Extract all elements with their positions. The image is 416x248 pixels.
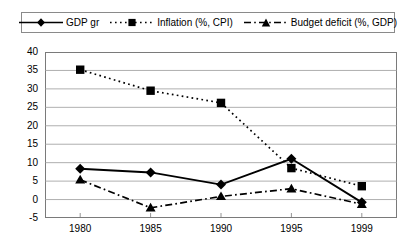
y-axis-tick-label: 25: [8, 102, 38, 112]
chart-legend: GDP gr Inflation (%, CPI) Budget deficit…: [21, 12, 395, 33]
y-axis-tick-label: 35: [8, 65, 38, 75]
x-axis-tick-label: 1980: [55, 224, 105, 234]
legend-marker-square-dotted-icon: [110, 16, 154, 29]
legend-label-gdp-gr: GDP gr: [66, 18, 99, 28]
x-axis-ticks: [80, 213, 362, 218]
data-point-marker: [216, 191, 226, 200]
legend-label-inflation: Inflation (%, CPI): [157, 18, 233, 28]
line-chart: GDP gr Inflation (%, CPI) Budget deficit…: [0, 0, 416, 248]
data-point-marker: [76, 66, 84, 74]
x-axis-tick-label: 1990: [196, 224, 246, 234]
y-axis-tick-label: 30: [8, 84, 38, 94]
legend-item-gdp-gr: GDP gr: [19, 16, 99, 29]
data-point-marker: [146, 167, 156, 177]
data-point-marker: [286, 184, 296, 193]
data-point-marker: [146, 87, 154, 95]
y-axis-tick-label: 0: [8, 195, 38, 205]
y-axis-tick-label: 40: [8, 47, 38, 57]
y-axis-tick-label: 10: [8, 158, 38, 168]
x-axis-tick-label: 1995: [266, 224, 316, 234]
legend-marker-triangle-dashdot-icon: [244, 16, 288, 29]
legend-label-budget-deficit: Budget deficit (%, GDP): [291, 18, 397, 28]
legend-item-inflation: Inflation (%, CPI): [110, 16, 233, 29]
y-axis-tick-label: 5: [8, 176, 38, 186]
y-axis-tick-label: -5: [8, 213, 38, 223]
plot-canvas: [45, 52, 397, 218]
y-axis-tick-label: 15: [8, 139, 38, 149]
data-point-marker: [75, 175, 85, 184]
data-point-marker: [75, 164, 85, 174]
y-axis-tick-label: 20: [8, 121, 38, 131]
data-point-marker: [217, 99, 225, 107]
data-point-marker: [358, 182, 366, 190]
data-point-marker: [287, 164, 295, 172]
x-axis-tick-label: 1999: [337, 224, 387, 234]
x-axis-tick-label: 1985: [126, 224, 176, 234]
legend-item-budget-deficit: Budget deficit (%, GDP): [244, 16, 397, 29]
legend-marker-diamond-solid-icon: [19, 16, 63, 29]
